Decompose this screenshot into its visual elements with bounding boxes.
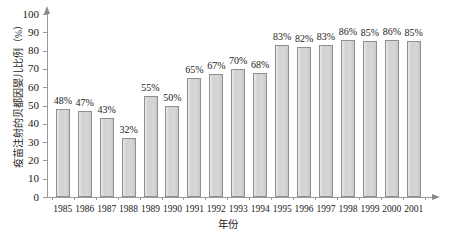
bar xyxy=(363,41,377,197)
x-axis-tick xyxy=(271,197,272,200)
x-axis-tick xyxy=(183,197,184,200)
bar xyxy=(341,40,355,197)
x-axis-tick xyxy=(315,197,316,200)
y-axis-tick xyxy=(43,51,47,52)
x-axis-tick xyxy=(249,197,250,200)
bar xyxy=(231,69,245,197)
x-axis-title: 年份 xyxy=(0,219,456,231)
bar xyxy=(209,74,223,197)
y-axis-tick xyxy=(43,14,47,15)
y-axis-tick-label: 40 xyxy=(9,118,39,129)
y-axis-tick xyxy=(43,69,47,70)
bar xyxy=(319,45,333,197)
bar xyxy=(253,73,267,197)
y-axis-tick-label: 100 xyxy=(9,9,39,20)
x-axis-tick xyxy=(381,197,382,200)
x-axis-tick xyxy=(140,197,141,200)
bar xyxy=(275,45,289,197)
x-axis-tick xyxy=(359,197,360,200)
x-axis-tick xyxy=(162,197,163,200)
y-axis-tick xyxy=(43,124,47,125)
x-axis-tick xyxy=(74,197,75,200)
bar xyxy=(187,78,201,197)
bar-value-label: 43% xyxy=(90,105,124,115)
bar xyxy=(385,40,399,197)
y-axis-tick-label: 0 xyxy=(9,192,39,203)
x-axis-tick xyxy=(205,197,206,200)
x-axis-tick xyxy=(96,197,97,200)
bar-value-label: 32% xyxy=(112,125,146,135)
x-axis-tick xyxy=(403,197,404,200)
x-axis-tick-label: 2001 xyxy=(399,204,429,215)
bar-value-label: 68% xyxy=(243,60,277,70)
y-axis-tick xyxy=(43,87,47,88)
y-axis-tick-label: 30 xyxy=(9,137,39,148)
y-axis-arrow-icon xyxy=(44,6,50,14)
y-axis-tick xyxy=(43,142,47,143)
y-axis-tick xyxy=(43,179,47,180)
y-axis-tick-label: 80 xyxy=(9,45,39,56)
y-axis-tick xyxy=(43,197,47,198)
bar xyxy=(407,41,421,197)
x-axis-tick xyxy=(337,197,338,200)
x-axis-tick xyxy=(52,197,53,200)
x-axis-tick xyxy=(293,197,294,200)
x-axis-tick xyxy=(118,197,119,200)
y-axis-tick-label: 10 xyxy=(9,173,39,184)
bar xyxy=(165,106,179,198)
bar xyxy=(56,109,70,197)
x-axis-tick xyxy=(425,197,426,200)
y-axis-tick-label: 60 xyxy=(9,82,39,93)
y-axis-tick-label: 50 xyxy=(9,100,39,111)
bar-value-label: 50% xyxy=(155,93,189,103)
y-axis-tick-label: 70 xyxy=(9,63,39,74)
y-axis-tick-label: 20 xyxy=(9,155,39,166)
plot-area: 0102030405060708090100 48%47%43%32%55%50… xyxy=(47,14,432,197)
x-axis-arrow-icon xyxy=(432,194,440,200)
bar xyxy=(297,47,311,197)
x-axis-tick xyxy=(227,197,228,200)
bar xyxy=(144,96,158,197)
y-axis-tick xyxy=(43,32,47,33)
y-axis-tick xyxy=(43,160,47,161)
bar xyxy=(78,111,92,197)
x-axis-line xyxy=(47,197,432,198)
bar xyxy=(122,138,136,197)
y-axis-tick-label: 90 xyxy=(9,27,39,38)
bar-value-label: 85% xyxy=(397,28,431,38)
bar-chart: 疫苗注射的贝都因婴儿比例（%） 0102030405060708090100 4… xyxy=(0,0,456,243)
